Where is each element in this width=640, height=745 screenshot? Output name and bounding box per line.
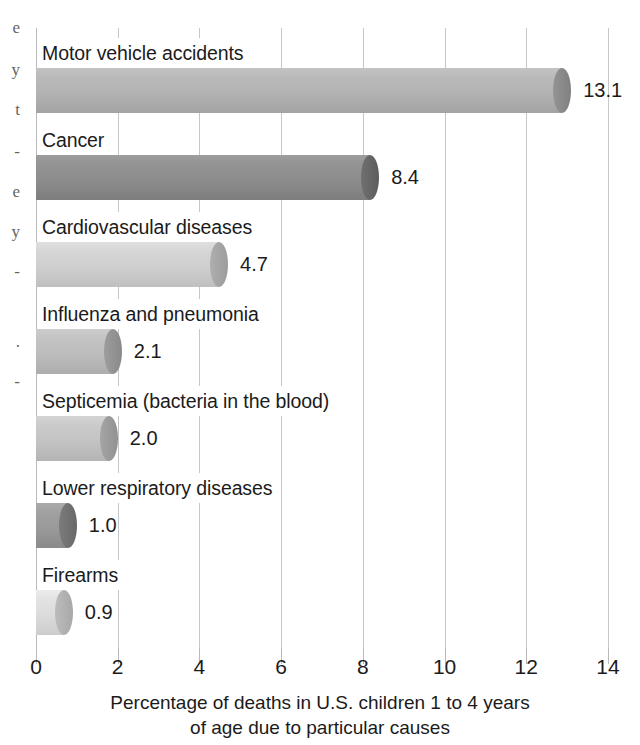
bar-container	[36, 416, 118, 461]
x-axis-tick-label: 4	[179, 655, 219, 679]
bar-category-label: Cardiovascular diseases	[40, 212, 259, 242]
bar-container	[36, 590, 73, 635]
gridline	[281, 28, 282, 648]
bar-body	[36, 155, 370, 200]
x-axis-label-line-2: of age due to particular causes	[0, 715, 640, 740]
bar[interactable]	[36, 329, 122, 374]
bar-container	[36, 68, 571, 113]
bar-container	[36, 329, 122, 374]
bar-value-label: 2.1	[134, 329, 162, 374]
bar[interactable]	[36, 503, 77, 548]
bar-container	[36, 503, 77, 548]
bar-category-label: Septicemia (bacteria in the blood)	[40, 386, 336, 416]
gridline	[363, 28, 364, 648]
bar-value-label: 0.9	[85, 590, 113, 635]
x-axis-tick-label: 12	[506, 655, 546, 679]
bar[interactable]	[36, 155, 379, 200]
x-axis-tick-label: 0	[16, 655, 56, 679]
plot-area: Motor vehicle accidents13.1Cancer8.4Card…	[36, 28, 608, 648]
bar[interactable]	[36, 68, 571, 113]
bar-end-cap	[100, 416, 118, 461]
gridline	[199, 28, 200, 648]
gridline	[445, 28, 446, 648]
bar-container	[36, 155, 379, 200]
bar-end-cap	[361, 155, 379, 200]
bar-category-label: Firearms	[40, 560, 125, 590]
bar-value-label: 2.0	[130, 416, 158, 461]
bar[interactable]	[36, 242, 228, 287]
gridline	[608, 28, 609, 648]
bar-category-label: Influenza and pneumonia	[40, 299, 266, 329]
x-axis-tick-label: 6	[261, 655, 301, 679]
bar-value-label: 4.7	[240, 242, 268, 287]
bar-category-label: Motor vehicle accidents	[40, 38, 250, 68]
x-axis-tick-label: 10	[425, 655, 465, 679]
bar-end-cap	[55, 590, 73, 635]
bar-end-cap	[553, 68, 571, 113]
gridline	[526, 28, 527, 648]
bar[interactable]	[36, 590, 73, 635]
bar[interactable]	[36, 416, 118, 461]
x-axis-tick-label: 8	[343, 655, 383, 679]
bar-body	[36, 416, 109, 461]
horizontal-bar-chart: Motor vehicle accidents13.1Cancer8.4Card…	[0, 0, 640, 745]
bar-value-label: 1.0	[89, 503, 117, 548]
bar-category-label: Cancer	[40, 125, 111, 155]
bar-body	[36, 242, 219, 287]
bar-body	[36, 68, 562, 113]
bar-end-cap	[104, 329, 122, 374]
bar-body	[36, 329, 113, 374]
bar-category-label: Lower respiratory diseases	[40, 473, 279, 503]
bar-end-cap	[210, 242, 228, 287]
x-axis-label-line-1: Percentage of deaths in U.S. children 1 …	[0, 690, 640, 715]
bar-value-label: 8.4	[391, 155, 419, 200]
bar-value-label: 13.1	[583, 68, 622, 113]
bar-end-cap	[59, 503, 77, 548]
bar-container	[36, 242, 228, 287]
x-axis-label: Percentage of deaths in U.S. children 1 …	[0, 690, 640, 740]
x-axis-tick-label: 14	[588, 655, 628, 679]
x-axis-tick-label: 2	[98, 655, 138, 679]
